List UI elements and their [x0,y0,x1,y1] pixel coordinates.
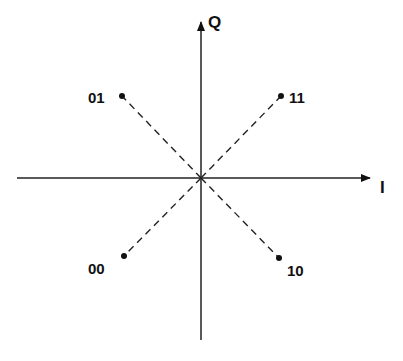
point-11 [278,93,284,99]
point-00 [121,253,127,259]
point-label-01: 01 [88,89,105,106]
dashed-line-11 [201,96,281,178]
point-01 [119,93,125,99]
point-10 [276,255,282,261]
point-label-10: 10 [287,262,304,279]
point-label-11: 11 [289,89,305,106]
dashed-line-01 [122,96,201,178]
q-axis-label: Q [208,13,221,32]
constellation-diagram: Q I 01 11 00 10 [0,0,403,361]
dashed-line-00 [124,178,201,256]
i-axis-label: I [380,178,385,197]
dashed-line-10 [201,178,279,258]
point-label-00: 00 [88,260,105,277]
